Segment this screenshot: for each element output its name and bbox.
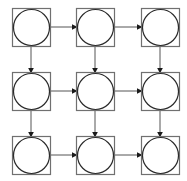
node-box xyxy=(13,73,51,111)
node-box xyxy=(142,9,180,47)
grid-flow-diagram xyxy=(0,0,187,181)
node-n33 xyxy=(142,137,180,175)
node-n31 xyxy=(13,137,51,175)
node-box xyxy=(77,137,115,175)
node-box xyxy=(77,9,115,47)
node-n22 xyxy=(77,73,115,111)
node-box xyxy=(13,9,51,47)
node-n12 xyxy=(77,9,115,47)
node-box xyxy=(13,137,51,175)
node-box xyxy=(142,137,180,175)
node-box xyxy=(77,73,115,111)
node-n21 xyxy=(13,73,51,111)
node-n11 xyxy=(13,9,51,47)
node-n32 xyxy=(77,137,115,175)
node-n13 xyxy=(142,9,180,47)
node-box xyxy=(142,73,180,111)
node-n23 xyxy=(142,73,180,111)
nodes-layer xyxy=(13,9,180,175)
